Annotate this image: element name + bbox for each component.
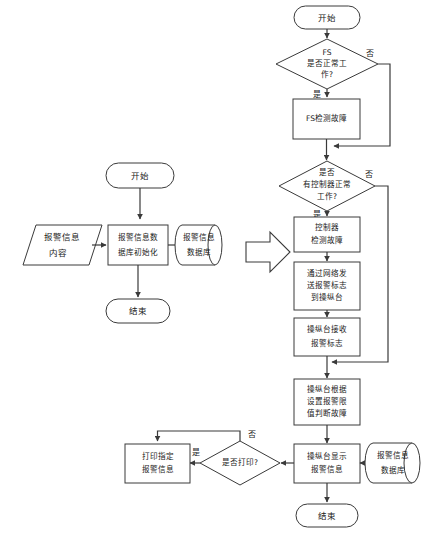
left-input-node[interactable]: 报警信息 内容 [23,225,102,265]
process-fs-fault-label: FS检测故障 [306,113,347,123]
process-fs-fault-detect[interactable]: FS检测故障 [293,99,360,139]
process-print-line2: 报警信息 [142,464,174,474]
left-end-label: 结束 [129,306,147,316]
left-input-label-line2: 内容 [49,248,67,258]
edge-label-fs-yes: 是 [313,90,321,99]
right-database-node[interactable]: 报警信息 数据库 [365,443,420,483]
process-console-display-alarm[interactable]: 操纵台显示 报警信息 [294,444,360,483]
right-end-label: 结束 [318,511,336,521]
edge-label-controller-no: 否 [365,170,373,179]
left-end-node[interactable]: 结束 [106,299,170,323]
left-db-label-line1: 报警信息 [183,232,215,242]
right-start-node[interactable]: 开始 [294,6,360,29]
decision-controller-label-line3: 工作? [317,191,337,201]
process-display-line2: 报警信息 [311,464,343,474]
process-judge-fault-line2: 设置报警限 [307,396,347,406]
process-display-line1: 操纵台显示 [307,451,347,461]
decision-controller-label-line1: 是否 [319,168,335,177]
process-receive-flag-line1: 操纵台接收 [307,324,347,334]
left-database-node[interactable]: 报警信息 数据库 [175,225,222,265]
left-init-label-line2: 据库初始化 [118,247,158,257]
process-send-alarm-flag[interactable]: 通过网络发 送报警标志 到操纵台 [294,262,360,310]
right-db-label-line2: 数据库 [381,465,405,475]
process-controller-fault-detect[interactable]: 控制器 检测故障 [294,217,360,252]
left-init-process-node[interactable]: 报警信息数 据库初始化 [108,225,168,265]
process-send-flag-line2: 送报警标志 [307,280,347,290]
decision-print[interactable]: 是否打印? [200,441,280,485]
flowchart-svg: 开始 报警信息 内容 报警信息数 据库初始化 [0,0,434,539]
process-console-receive-flag[interactable]: 操纵台接收 报警标志 [294,318,360,356]
decision-fs-label-line3: 作? [321,69,333,79]
edge-print-no-loop [158,431,241,441]
process-send-flag-line1: 通过网络发 [307,268,347,278]
decision-fs-normal[interactable]: FS 是否正常工 作? [276,39,378,89]
process-controller-fault-line1: 控制器 [315,222,339,232]
decision-controller-label-line2: 有控制器正常 [303,179,351,189]
process-print-line1: 打印指定 [142,451,174,461]
right-start-label: 开始 [318,13,336,23]
edge-label-fs-no: 否 [366,49,374,58]
process-send-flag-line3: 到操纵台 [311,292,343,302]
right-end-node[interactable]: 结束 [296,504,358,527]
transition-block-arrow [246,232,290,272]
edge-label-print-yes: 是 [192,448,200,457]
decision-fs-label-line1: FS [322,48,331,57]
process-receive-flag-line2: 报警标志 [311,338,343,348]
left-start-label: 开始 [131,171,149,181]
left-db-label-line2: 数据库 [187,247,211,257]
process-print-alarm-info[interactable]: 打印指定 报警信息 [125,444,190,483]
process-console-judge-fault[interactable]: 操纵台根据 设置报警限 值判断故障 [294,379,360,425]
left-start-node[interactable]: 开始 [106,163,174,188]
process-judge-fault-line1: 操纵台根据 [307,384,347,394]
left-init-label-line1: 报警信息数 [118,232,158,242]
edge-label-print-no: 否 [248,430,256,439]
process-controller-fault-line2: 检测故障 [311,235,343,245]
decision-fs-label-line2: 是否正常工 [307,59,347,68]
flowchart-canvas: 开始 报警信息 内容 报警信息数 据库初始化 [0,0,434,539]
left-flowchart-group: 开始 报警信息 内容 报警信息数 据库初始化 [23,163,222,323]
decision-controller-normal[interactable]: 是否 有控制器正常 工作? [279,161,375,211]
process-judge-fault-line3: 值判断故障 [307,408,347,418]
right-db-label-line1: 报警信息 [377,450,409,460]
decision-print-label: 是否打印? [222,457,258,467]
left-input-label-line1: 报警信息 [44,232,80,242]
